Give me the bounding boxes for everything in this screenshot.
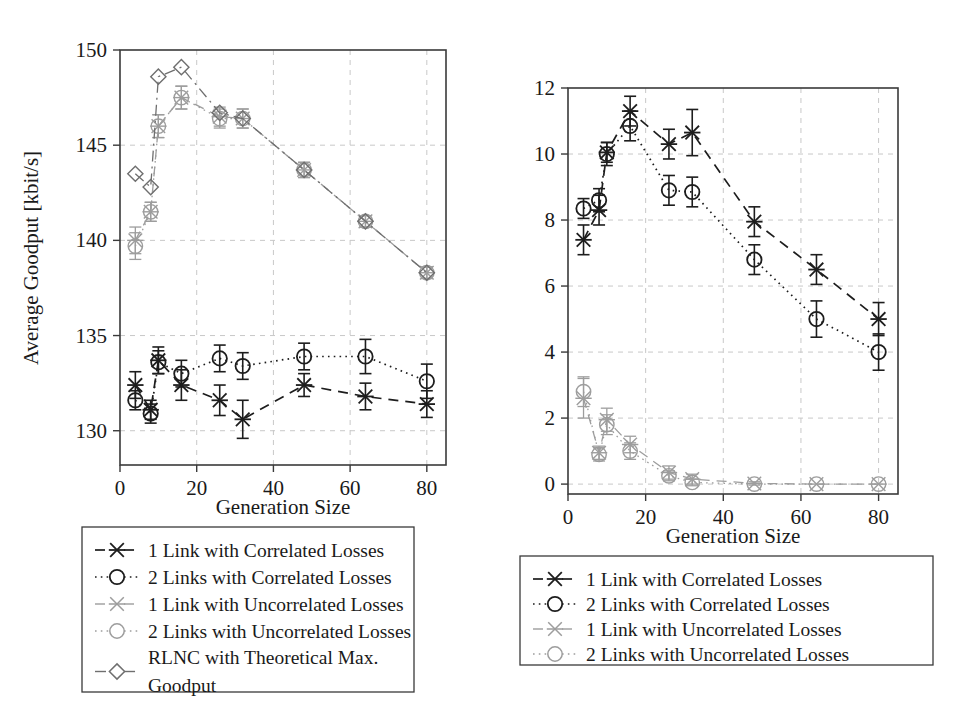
x-tick-label: 80 [868,505,889,529]
series-0 [127,347,435,438]
series-3 [576,377,885,491]
y-tick-label: 10 [534,142,555,166]
x-tick-label: 0 [563,505,574,529]
legend-label: 2 Links with Uncorrelated Losses [148,621,411,642]
y-tick-label: 6 [545,274,556,298]
goodput-gridlines [120,50,446,465]
x-tick-label: 0 [115,476,126,500]
series-2 [127,86,435,279]
goodput-panel: 130135140145150 020406080 Average Goodpu… [0,0,500,721]
series-0 [575,96,886,335]
y-tick-label: 130 [76,419,108,443]
error-bar [359,339,371,373]
loss-series-group [575,96,886,491]
figure-root: 130135140145150 020406080 Average Goodpu… [0,0,965,721]
legend-label: 1 Link with Uncorrelated Losses [148,594,404,615]
y-tick-label: 0 [545,472,556,496]
goodput-plot-area: 130135140145150 020406080 [76,38,447,500]
series-1 [128,339,434,423]
legend-label: 2 Links with Correlated Losses [148,567,392,588]
series-3 [128,86,434,280]
y-tick-label: 12 [534,76,555,100]
y-tick-label: 150 [76,38,108,62]
y-tick-label: 2 [545,406,556,430]
goodput-y-axis-label: Average Goodput [kbit/s] [19,151,43,365]
error-bar [237,353,249,380]
error-bar [810,301,822,337]
error-bar [686,177,698,207]
legend-label: 1 Link with Correlated Losses [148,540,384,561]
legend-label: 2 Links with Uncorrelated Losses [586,644,849,665]
goodput-x-axis-label: Generation Size [216,495,351,519]
x-tick-label: 20 [186,476,207,500]
y-tick-label: 4 [545,340,556,364]
x-tick-label: 80 [416,476,437,500]
loss-svg: 024681012 020406080 Average Loss [%] Gen… [500,0,965,721]
loss-y-tick-labels: 024681012 [534,76,556,496]
error-bar [421,364,433,398]
series-4 [128,60,435,281]
goodput-series-group [127,60,435,439]
legend-label: RLNC with Theoretical Max. [148,647,378,668]
loss-frame [568,88,898,494]
legend-label: 1 Link with Uncorrelated Losses [586,619,842,640]
goodput-tickmarks [113,50,427,472]
loss-gridlines [568,88,898,494]
y-tick-label: 140 [76,228,108,252]
error-bar [748,245,760,275]
goodput-y-tick-labels: 130135140145150 [76,38,108,443]
y-tick-label: 145 [76,133,108,157]
error-bar [214,345,226,372]
x-tick-label: 20 [635,505,656,529]
series-1 [576,111,885,370]
y-tick-label: 135 [76,324,108,348]
error-bar [175,360,187,387]
legend-label-cont: Goodput [148,675,217,696]
goodput-svg: 130135140145150 020406080 Average Goodpu… [0,0,500,721]
loss-panel: 024681012 020406080 Average Loss [%] Gen… [500,0,965,721]
y-tick-label: 8 [545,208,556,232]
legend-label: 1 Link with Correlated Losses [586,569,822,590]
loss-x-axis-label: Generation Size [666,524,801,548]
loss-plot-area: 024681012 020406080 [534,76,898,529]
legend-label: 2 Links with Correlated Losses [586,594,830,615]
series-2 [575,378,886,490]
goodput-frame [120,50,446,465]
